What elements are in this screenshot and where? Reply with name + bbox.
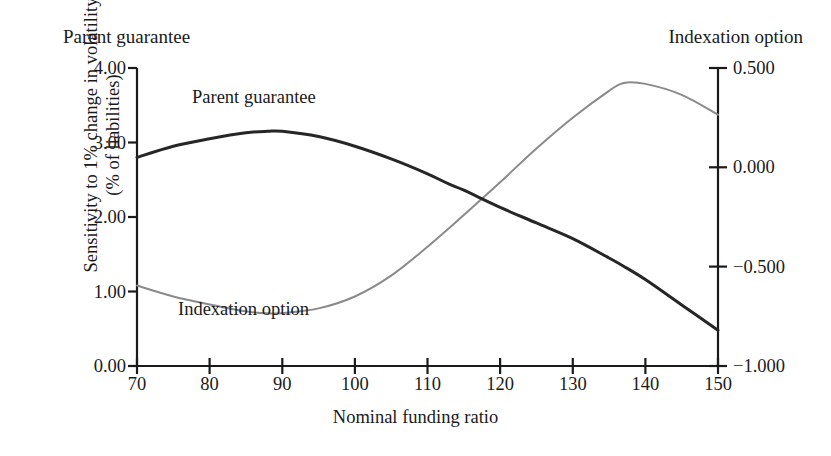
series-annotation-indexation-option: Indexation option <box>178 300 309 319</box>
series-annotation-parent-guarantee: Parent guarantee <box>192 88 316 107</box>
left-axis-ticks <box>128 68 137 366</box>
series-line-indexation-option <box>137 82 718 313</box>
plot-area <box>0 0 831 456</box>
chart-figure: Parent guarantee Indexation option Sensi… <box>0 0 831 456</box>
